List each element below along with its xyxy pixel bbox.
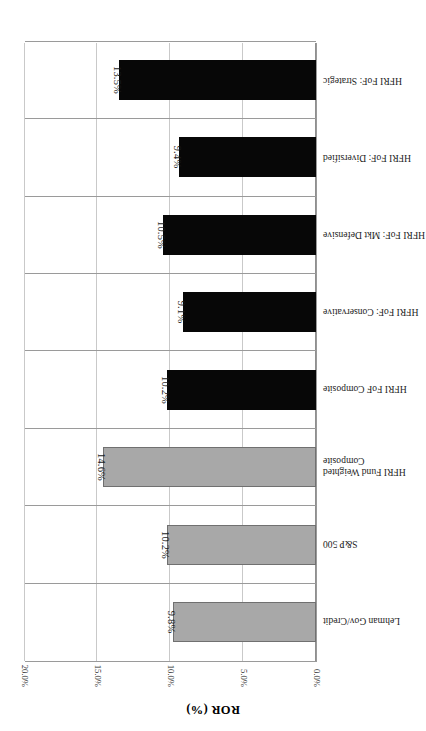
bar-chart: ROR (%) 0.0% 5.0% 10.0% 15.0% 20.0% Lehm… [0, 0, 426, 731]
category-label-hfri-fof-composite: HFRI FoF Composite [319, 383, 426, 394]
bar-value-hfri-fof-diversified: 9.4% [172, 146, 183, 169]
bar-hfri-fof-conservative[interactable] [183, 292, 316, 332]
category-separator-8 [25, 41, 316, 42]
bar-sp-500[interactable] [167, 525, 316, 565]
category-separator-5 [25, 273, 316, 274]
bar-hfri-fof-composite[interactable] [167, 370, 316, 410]
category-label-lehman-gov-credit: Lehman Gov/Credit [319, 615, 426, 626]
bar-row-hfri-fof-strategic: 13.5% [25, 60, 316, 100]
bar-hfri-fof-mkt-defensive[interactable] [163, 215, 316, 255]
bar-row-hfri-fof-mkt-defensive: 10.5% [25, 215, 316, 255]
bar-value-hfri-fof-strategic: 13.5% [112, 66, 123, 94]
category-separator-4 [25, 350, 316, 351]
bar-row-hfri-fof-composite: 10.2% [25, 370, 316, 410]
bar-value-sp-500: 10.2% [160, 531, 171, 559]
plot-area: 9.8% 10.2% 14.6% 10.2% 9.1% [25, 43, 317, 662]
bar-hfri-fund-weighted-composite[interactable] [103, 447, 316, 487]
category-label-hfri-fof-diversified: HFRI FoF: Diversified [319, 152, 426, 163]
value-tick-label-0: 0.0% [312, 669, 322, 687]
category-separator-7 [25, 118, 316, 119]
category-separator-3 [25, 428, 316, 429]
bar-row-hfri-fof-diversified: 9.4% [25, 137, 316, 177]
value-tick-label-10: 10.0% [166, 665, 176, 687]
category-label-hfri-fof-mkt-defensive: HFRI FoF: Mkt Defensive [319, 229, 426, 240]
gridline-15-percent [96, 43, 97, 661]
bar-value-lehman-gov-credit: 9.8% [166, 611, 177, 634]
bar-row-lehman-gov-credit: 9.8% [25, 602, 316, 642]
value-tick-label-15: 15.0% [93, 665, 103, 687]
category-separator-2 [25, 505, 316, 506]
category-separator-6 [25, 196, 316, 197]
bar-value-hfri-fof-composite: 10.2% [160, 376, 171, 404]
bar-hfri-fof-diversified[interactable] [179, 137, 316, 177]
value-tick-label-20: 20.0% [20, 665, 30, 687]
bar-row-hfri-fund-weighted-composite: 14.6% [25, 447, 316, 487]
gridline-10-percent [169, 43, 170, 661]
bar-value-hfri-fof-conservative: 9.1% [176, 301, 187, 324]
category-label-hfri-fof-strategic: HFRI FoF: Strategic [319, 75, 426, 86]
category-label-sp-500: S&P 500 [319, 538, 426, 549]
category-label-hfri-fund-weighted-composite: HFRI Fund Weighted Composite [319, 456, 426, 477]
gridline-0-percent [315, 43, 316, 661]
category-separator-1 [25, 583, 316, 584]
bar-value-hfri-fof-mkt-defensive: 10.5% [156, 221, 167, 249]
gridline-20-percent [24, 43, 25, 661]
bar-row-sp-500: 10.2% [25, 525, 316, 565]
bar-lehman-gov-credit[interactable] [173, 602, 316, 642]
bar-hfri-fof-strategic[interactable] [119, 60, 316, 100]
gridline-5-percent [242, 43, 243, 661]
value-axis-title: ROR (%) [186, 702, 240, 717]
bar-row-hfri-fof-conservative: 9.1% [25, 292, 316, 332]
bar-value-hfri-fund-weighted-composite: 14.6% [96, 453, 107, 481]
value-tick-label-5: 5.0% [239, 669, 249, 687]
rotated-chart-figure: ROR (%) 0.0% 5.0% 10.0% 15.0% 20.0% Lehm… [0, 0, 426, 731]
category-label-hfri-fof-conservative: HFRI FoF: Conservative [319, 306, 426, 317]
